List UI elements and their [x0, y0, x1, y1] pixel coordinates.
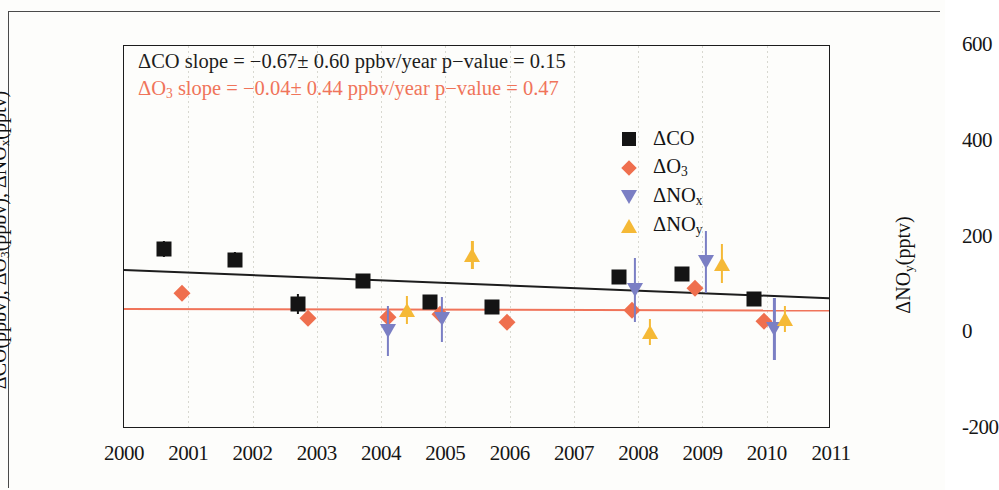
y-axis-right-title: ΔNOy(pptv) — [892, 150, 917, 380]
y-axis-left-title: ΔCO(ppbv), ΔO3(ppbv), ΔNOx(pptv) — [0, 40, 13, 440]
x-tick-label: 2006 — [474, 441, 546, 466]
y-tick-label-right: 0 — [962, 319, 972, 344]
gridline-vertical — [767, 46, 768, 427]
y-tick-label-right: -200 — [962, 415, 999, 440]
data-point — [348, 266, 378, 296]
marker-diamond — [621, 160, 637, 176]
data-point — [770, 304, 800, 334]
annotation-co-slope: ΔCO slope = −0.67± 0.60 ppbv/year p−valu… — [138, 50, 566, 73]
legend-item[interactable]: ΔNOx — [614, 182, 703, 211]
data-point — [293, 303, 323, 333]
gridline-vertical — [574, 46, 575, 427]
x-tick-label: 2004 — [345, 441, 417, 466]
annotation-o3-slope: ΔO3 slope = −0.04± 0.44 ppbv/year p−valu… — [138, 77, 559, 102]
data-point — [635, 317, 665, 347]
x-tick-label: 2008 — [602, 441, 674, 466]
data-point — [427, 304, 457, 334]
marker-triangle-up — [464, 248, 480, 262]
marker-triangle-up — [714, 257, 730, 271]
marker-triangle-down — [621, 190, 637, 204]
gridline-vertical — [253, 46, 254, 427]
x-tick-label: 2005 — [409, 441, 481, 466]
plot-inner — [124, 46, 829, 427]
y-tick-label-right: 600 — [962, 32, 992, 57]
data-point — [167, 278, 197, 308]
x-tick-label: 2009 — [666, 441, 738, 466]
y-tick-label-right: 200 — [962, 224, 992, 249]
data-point — [220, 245, 250, 275]
legend-item[interactable]: ΔCO — [614, 124, 703, 153]
x-tick-label: 2002 — [217, 441, 289, 466]
legend-item[interactable]: ΔO3 — [614, 153, 703, 182]
y-tick-label-right: 400 — [962, 128, 992, 153]
x-tick-major — [124, 430, 126, 439]
x-tick-label: 2000 — [88, 441, 160, 466]
data-point — [707, 249, 737, 279]
data-point — [392, 295, 422, 325]
marker-triangle-up — [621, 219, 637, 233]
legend-marker — [614, 186, 644, 208]
legend-marker — [614, 157, 644, 179]
legend-marker — [614, 128, 644, 150]
x-tick-label: 2010 — [731, 441, 803, 466]
marker-diamond — [687, 280, 703, 296]
marker-triangle-up — [642, 325, 658, 339]
x-tick-label: 2007 — [538, 441, 610, 466]
marker-diamond — [174, 285, 190, 301]
marker-triangle-up — [399, 303, 415, 317]
legend: ΔCOΔO3ΔNOxΔNOy — [614, 124, 703, 240]
gridline-vertical — [188, 46, 189, 427]
marker-triangle-up — [777, 312, 793, 326]
legend-item[interactable]: ΔNOy — [614, 211, 703, 240]
marker-square — [156, 241, 171, 256]
marker-triangle-down — [434, 312, 450, 326]
data-point — [149, 234, 179, 264]
gridline-vertical — [381, 46, 382, 427]
gridline-vertical — [445, 46, 446, 427]
marker-square — [356, 274, 371, 289]
x-tick-major — [124, 478, 126, 487]
legend-label: ΔCO — [653, 127, 695, 150]
data-point — [620, 275, 650, 305]
marker-diamond — [499, 314, 515, 330]
gridline-vertical — [510, 46, 511, 427]
data-point — [457, 240, 487, 270]
data-point — [492, 307, 522, 337]
marker-triangle-down — [380, 324, 396, 338]
marker-square — [746, 291, 761, 306]
marker-diamond — [300, 310, 316, 326]
gridline-vertical — [317, 46, 318, 427]
plot-area: ΔCO slope = −0.67± 0.60 ppbv/year p−valu… — [123, 45, 830, 428]
marker-square — [622, 132, 636, 146]
marker-square — [227, 252, 242, 267]
marker-triangle-down — [627, 283, 643, 297]
legend-label: ΔNOy — [653, 213, 703, 238]
x-tick-label: 2003 — [281, 441, 353, 466]
x-tick-label: 2001 — [152, 441, 224, 466]
legend-label: ΔO3 — [653, 155, 688, 180]
x-tick-top-major — [124, 487, 126, 490]
legend-marker — [614, 215, 644, 237]
x-tick-label: 2011 — [795, 441, 867, 466]
legend-label: ΔNOx — [653, 184, 703, 209]
